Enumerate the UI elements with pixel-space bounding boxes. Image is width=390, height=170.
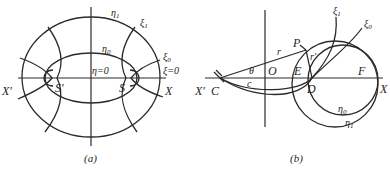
label-xi0-a: ξ0 [163, 51, 171, 64]
figure-a: X′ X S′ S η1 η0 ξ1 ξ0 η=0 ξ=0 (a) [1, 7, 179, 165]
label-xi-zero: ξ=0 [163, 65, 179, 77]
hyperbola-xi1-left [45, 27, 61, 132]
figure-b: X′ C θ c O r r′ P E D F X ξ1 ξ0 η0 η1 (b… [194, 5, 388, 165]
label-eta0-b: η0 [338, 103, 347, 116]
label-xi1-a: ξ1 [140, 17, 148, 30]
label-r-prime: r′ [310, 51, 317, 62]
label-r: r [277, 46, 281, 57]
label-x-a: X [164, 84, 173, 98]
label-s-prime: S′ [55, 81, 64, 95]
label-xi0-b: ξ0 [364, 18, 372, 31]
caption-a: (a) [84, 152, 97, 165]
label-o: O [268, 64, 277, 78]
arc-xi0 [220, 28, 362, 95]
label-c-length: c [247, 78, 252, 89]
label-s: S [119, 81, 125, 95]
figure-canvas: X′ X S′ S η1 η0 ξ1 ξ0 η=0 ξ=0 (a) X′ C θ… [0, 0, 390, 170]
label-d: D [306, 82, 316, 96]
label-eta1-a: η1 [111, 7, 119, 20]
label-c: C [211, 84, 220, 98]
label-x-prime-b: X′ [194, 84, 205, 98]
label-eta-zero: η=0 [92, 65, 109, 76]
label-xi1-b: ξ1 [333, 5, 341, 18]
label-p: P [292, 36, 301, 50]
label-x-prime-a: X′ [1, 84, 12, 98]
p-tick [300, 45, 306, 50]
label-eta1-b: η1 [345, 117, 353, 130]
label-f: F [357, 64, 366, 78]
caption-b: (b) [290, 152, 303, 165]
hyperbola-xi1-right [122, 27, 137, 132]
label-theta: θ [249, 65, 254, 76]
label-x-b: X [379, 82, 388, 96]
label-e: E [293, 64, 302, 78]
